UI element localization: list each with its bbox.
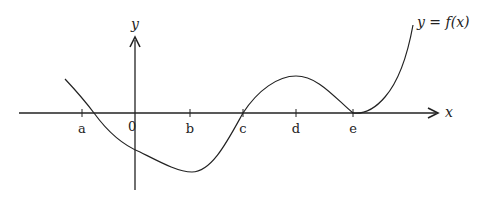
tick-label-d: d (292, 121, 300, 136)
tick-label-c: c (239, 121, 246, 136)
tick-label-e: e (349, 121, 357, 136)
curve-label: y = f(x) (416, 14, 470, 30)
x-axis-label: x (445, 104, 453, 120)
function-graph: x y 0 a b c d e y = f(x) (0, 0, 479, 202)
y-axis-label: y (130, 16, 140, 32)
tick-label-b: b (186, 121, 194, 136)
tick-label-a: a (78, 121, 86, 136)
function-curve (65, 25, 413, 172)
origin-label: 0 (128, 119, 136, 134)
